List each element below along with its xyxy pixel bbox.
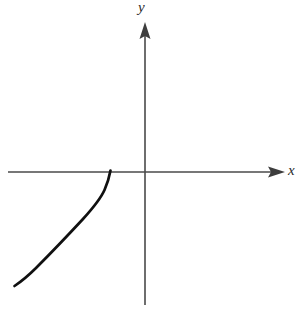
curve-series-line <box>15 171 111 287</box>
y-axis-label: y <box>138 0 145 15</box>
figure-container: x y <box>0 0 308 311</box>
coordinate-plane-graphic <box>0 0 308 311</box>
x-axis-label: x <box>288 163 295 178</box>
